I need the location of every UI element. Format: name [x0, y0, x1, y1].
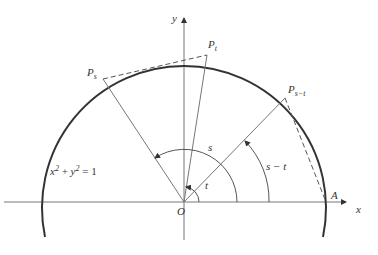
y-axis-label: y: [171, 12, 177, 24]
angle-s-minus-t-label: s − t: [266, 160, 287, 172]
chord-Pst-A: [285, 98, 326, 202]
radius-Ps: [103, 79, 184, 202]
radius-Pt: [184, 55, 207, 202]
circle-equation: x2 + y2 = 1: [49, 164, 97, 177]
angle-arc-s: [155, 149, 237, 202]
point-Ps-label: Ps: [86, 66, 97, 81]
point-Ps-t-label: Ps−t: [287, 83, 306, 98]
origin-label: O: [177, 205, 185, 217]
angle-s-label: s: [208, 141, 212, 153]
angle-t-label: t: [205, 179, 209, 191]
unit-circle-diagram: y x O A Ps Pt Ps−t s t s − t x2 + y2 = 1: [0, 0, 378, 255]
point-Pt-label: Pt: [207, 38, 218, 53]
point-A-label: A: [330, 189, 338, 201]
x-axis-label: x: [355, 203, 361, 215]
